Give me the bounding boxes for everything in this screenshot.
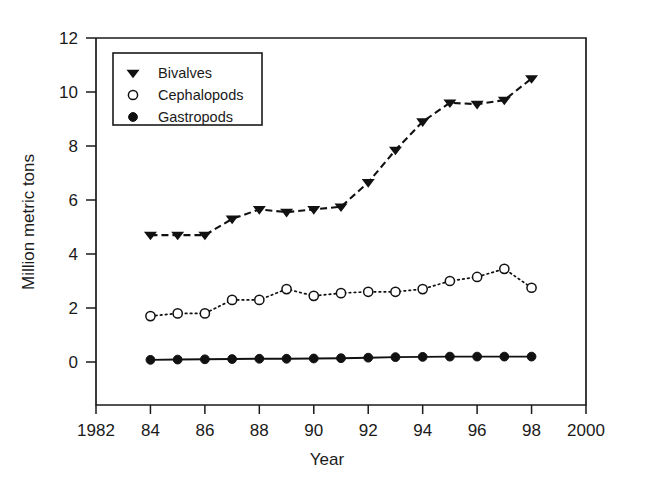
x-axis-ticks xyxy=(96,405,586,414)
x-axis-tick-labels: 198284868890929496982000 xyxy=(77,421,605,440)
x-tick-label-96: 96 xyxy=(468,421,487,440)
marker-bivalves xyxy=(280,209,293,218)
marker-gastropods xyxy=(309,354,318,363)
y-axis-tick-labels: 024681012 xyxy=(59,29,78,372)
y-tick-label-0: 0 xyxy=(69,353,78,372)
marker-cephalopods xyxy=(282,285,291,294)
y-tick-label-8: 8 xyxy=(69,137,78,156)
marker-gastropods xyxy=(391,353,400,362)
marker-cephalopods xyxy=(473,272,482,281)
x-axis-title: Year xyxy=(310,450,345,469)
marker-bivalves xyxy=(471,101,484,110)
marker-bivalves xyxy=(362,179,375,188)
marker-cephalopods xyxy=(527,283,536,292)
x-tick-label-2000: 2000 xyxy=(567,421,605,440)
marker-cephalopods xyxy=(128,90,137,99)
legend-label-gastropods: Gastropods xyxy=(158,109,233,125)
marker-gastropods xyxy=(228,355,237,364)
marker-gastropods xyxy=(445,352,454,361)
x-tick-label-98: 98 xyxy=(522,421,541,440)
marker-cephalopods xyxy=(200,309,209,318)
marker-cephalopods xyxy=(364,287,373,296)
marker-gastropods xyxy=(418,352,427,361)
x-tick-label-94: 94 xyxy=(413,421,432,440)
marker-gastropods xyxy=(173,355,182,364)
marker-cephalopods xyxy=(500,264,509,273)
marker-gastropods xyxy=(500,352,509,361)
marker-cephalopods xyxy=(146,312,155,321)
marker-gastropods xyxy=(146,355,155,364)
marker-gastropods xyxy=(337,354,346,363)
series-gastropods xyxy=(146,352,536,364)
marker-gastropods xyxy=(200,355,209,364)
marker-cephalopods xyxy=(418,285,427,294)
chart-figure: 024681012 198284868890929496982000 Year … xyxy=(0,0,654,490)
y-tick-label-2: 2 xyxy=(69,299,78,318)
y-axis-title: Million metric tons xyxy=(19,154,38,290)
x-tick-label-1982: 1982 xyxy=(77,421,115,440)
marker-cephalopods xyxy=(391,287,400,296)
y-tick-label-4: 4 xyxy=(69,245,78,264)
y-tick-label-6: 6 xyxy=(69,191,78,210)
marker-cephalopods xyxy=(255,295,264,304)
legend-label-bivalves: Bivalves xyxy=(158,65,212,81)
x-tick-label-88: 88 xyxy=(250,421,269,440)
chart-legend: BivalvesCephalopodsGastropods xyxy=(113,53,262,125)
series-cephalopods xyxy=(146,264,536,320)
marker-cephalopods xyxy=(228,295,237,304)
y-axis-ticks xyxy=(86,38,96,362)
marker-gastropods xyxy=(129,113,138,122)
marker-bivalves xyxy=(226,216,239,225)
y-tick-label-12: 12 xyxy=(59,29,78,48)
marker-cephalopods xyxy=(173,309,182,318)
x-tick-label-90: 90 xyxy=(304,421,323,440)
line-chart-canvas: 024681012 198284868890929496982000 Year … xyxy=(0,0,654,490)
marker-cephalopods xyxy=(336,289,345,298)
marker-gastropods xyxy=(364,353,373,362)
marker-gastropods xyxy=(527,352,536,361)
marker-gastropods xyxy=(473,352,482,361)
marker-gastropods xyxy=(282,354,291,363)
x-tick-label-84: 84 xyxy=(141,421,160,440)
marker-cephalopods xyxy=(309,291,318,300)
x-tick-label-86: 86 xyxy=(195,421,214,440)
x-tick-label-92: 92 xyxy=(359,421,378,440)
y-tick-label-10: 10 xyxy=(59,83,78,102)
marker-gastropods xyxy=(255,354,264,363)
marker-cephalopods xyxy=(445,276,454,285)
legend-label-cephalopods: Cephalopods xyxy=(158,87,243,103)
